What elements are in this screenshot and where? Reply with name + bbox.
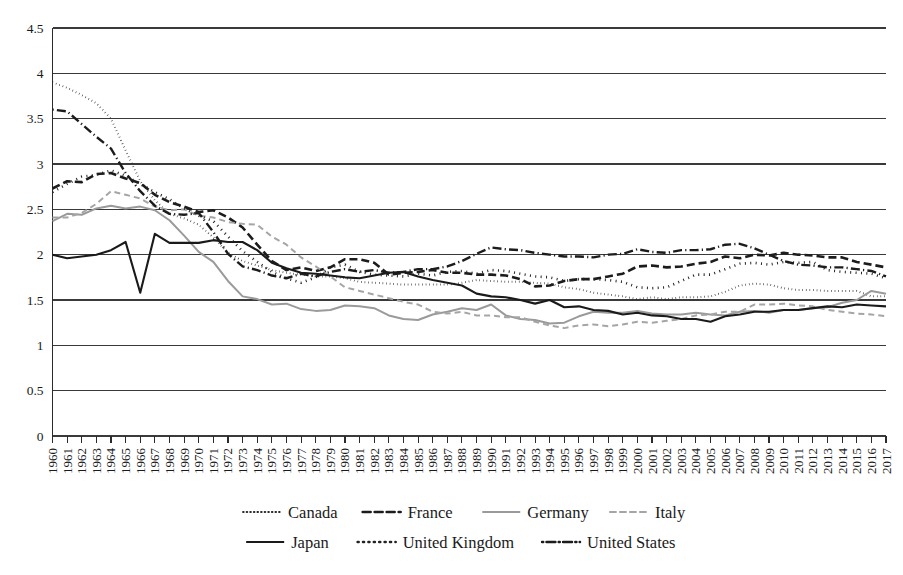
x-tick-label: 2015	[849, 448, 864, 474]
x-tick-label: 1987	[440, 448, 455, 475]
gridlines-group	[53, 28, 887, 436]
x-tick-label: 1960	[45, 448, 60, 474]
legend-item-united-states[interactable]: United States	[542, 533, 675, 552]
x-tick-label: 2014	[835, 448, 850, 475]
x-tick-label: 2010	[776, 448, 791, 474]
legend-label-italy: Italy	[655, 503, 686, 522]
x-tick-label: 1995	[557, 448, 572, 474]
x-tick-label: 2009	[762, 448, 777, 474]
y-tick-label: 2.5	[27, 202, 44, 217]
x-tick-label: 1965	[118, 448, 133, 474]
x-tick-label: 1962	[74, 448, 89, 474]
y-tick-label: 0	[37, 429, 44, 444]
x-tick-label: 2004	[688, 448, 703, 475]
legend-item-canada[interactable]: Canada	[243, 503, 338, 522]
y-tick-label: 1.5	[27, 293, 44, 308]
x-tick-label: 2000	[630, 448, 645, 474]
x-tick-label: 2017	[879, 448, 894, 475]
x-tick-label: 1961	[60, 448, 75, 474]
x-tick-label: 1963	[89, 448, 104, 474]
legend-item-france[interactable]: France	[363, 503, 453, 522]
x-tick-label: 1966	[133, 448, 148, 475]
x-tick-label: 2011	[791, 448, 806, 474]
x-tick-label: 2013	[820, 448, 835, 474]
x-tick-label: 1988	[454, 448, 469, 474]
legend-item-united-kingdom[interactable]: United Kingdom	[358, 533, 515, 552]
x-tick-label: 1989	[469, 448, 484, 474]
x-tick-label: 1971	[206, 448, 221, 474]
legend-label-united-states: United States	[587, 533, 675, 552]
x-tick-label: 2005	[703, 448, 718, 474]
x-tick-label: 1981	[352, 448, 367, 474]
legend-label-germany: Germany	[527, 503, 589, 522]
fertility-rate-line-chart: 00.511.522.533.544.5 1960196119621963196…	[0, 0, 903, 575]
x-tick-label: 2007	[732, 448, 747, 475]
legend-item-italy[interactable]: Italy	[610, 503, 686, 522]
x-tick-label: 1993	[528, 448, 543, 474]
x-axis-tick-labels: 1960196119621963196419651966196719681969…	[45, 448, 894, 475]
x-tick-label: 1998	[601, 448, 616, 474]
x-tick-label: 2016	[864, 448, 879, 475]
x-tick-label: 2012	[805, 448, 820, 474]
legend-item-japan[interactable]: Japan	[246, 533, 329, 552]
x-tick-label: 1994	[542, 448, 557, 475]
x-tick-label: 1991	[498, 448, 513, 474]
x-tick-label: 1970	[191, 448, 206, 474]
x-tick-label: 1992	[513, 448, 528, 474]
x-tick-label: 1982	[367, 448, 382, 474]
x-tick-label: 1979	[323, 448, 338, 474]
x-tick-label: 2002	[659, 448, 674, 474]
y-tick-label: 1	[37, 338, 44, 353]
legend-label-japan: Japan	[291, 533, 329, 552]
y-tick-label: 4	[37, 66, 44, 81]
x-tick-label: 1996	[571, 448, 586, 475]
x-tick-label: 2006	[718, 448, 733, 475]
series-line-italy	[53, 191, 887, 328]
x-tick-label: 1968	[162, 448, 177, 474]
x-axis-tickmarks	[53, 436, 887, 443]
x-tick-label: 1985	[411, 448, 426, 474]
x-tick-label: 2003	[674, 448, 689, 474]
y-tick-label: 3.5	[27, 111, 44, 126]
x-tick-label: 1984	[396, 448, 411, 475]
y-tick-label: 4.5	[27, 21, 44, 36]
x-tick-label: 1999	[615, 448, 630, 474]
x-tick-label: 2001	[645, 448, 660, 474]
x-tick-label: 1967	[147, 448, 162, 475]
x-tick-label: 1980	[337, 448, 352, 474]
x-tick-label: 1990	[484, 448, 499, 474]
x-tick-label: 1969	[177, 448, 192, 474]
y-axis-tick-labels: 00.511.522.533.544.5	[27, 21, 44, 444]
x-tick-label: 1997	[586, 448, 601, 475]
x-tick-label: 1975	[264, 448, 279, 474]
y-tick-label: 3	[37, 157, 44, 172]
x-tick-label: 1964	[103, 448, 118, 475]
x-tick-label: 1983	[381, 448, 396, 474]
legend-label-canada: Canada	[288, 503, 338, 522]
x-tick-label: 1973	[235, 448, 250, 474]
chart-legend: CanadaFranceGermanyItalyJapanUnited King…	[243, 503, 686, 552]
x-tick-label: 1976	[279, 448, 294, 475]
series-line-canada	[53, 82, 887, 299]
y-tick-label: 2	[37, 247, 44, 262]
y-tick-label: 0.5	[27, 383, 44, 398]
chart-container: 00.511.522.533.544.5 1960196119621963196…	[0, 0, 903, 575]
x-tick-label: 1972	[220, 448, 235, 474]
x-tick-label: 1978	[308, 448, 323, 474]
x-tick-label: 1977	[294, 448, 309, 475]
legend-label-united-kingdom: United Kingdom	[403, 533, 515, 552]
x-tick-label: 2008	[747, 448, 762, 474]
legend-item-germany[interactable]: Germany	[482, 503, 589, 522]
x-tick-label: 1974	[250, 448, 265, 475]
x-tick-label: 1986	[425, 448, 440, 475]
series-line-united-states	[53, 110, 887, 279]
legend-label-france: France	[408, 503, 453, 522]
